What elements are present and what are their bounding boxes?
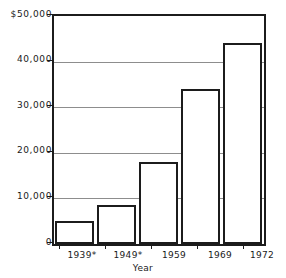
bar-1969 [181,89,220,244]
bar-chart: $50,000 40,000 30,000 20,000 10,000 0 19… [0,0,286,278]
x-axis-tick-0 [59,244,60,249]
bar-1949 [97,205,136,244]
x-axis-tick-3 [197,244,198,249]
bar-1939 [55,221,94,244]
x-axis-title: Year [0,263,286,273]
bar-1972 [223,43,262,244]
bar-1959 [139,162,178,244]
x-axis-label-1972: 1972 [237,250,286,260]
x-axis-tick-2 [151,244,152,249]
plot-area [52,14,266,246]
y-axis-label-50000: $50,000 [11,10,52,19]
x-axis-tick-4 [243,244,244,249]
x-axis-label-1959: 1959 [151,250,197,260]
x-axis-tick-1 [105,244,106,249]
x-axis-label-1939: 1939* [59,250,105,260]
x-axis-label-1949: 1949* [105,250,151,260]
